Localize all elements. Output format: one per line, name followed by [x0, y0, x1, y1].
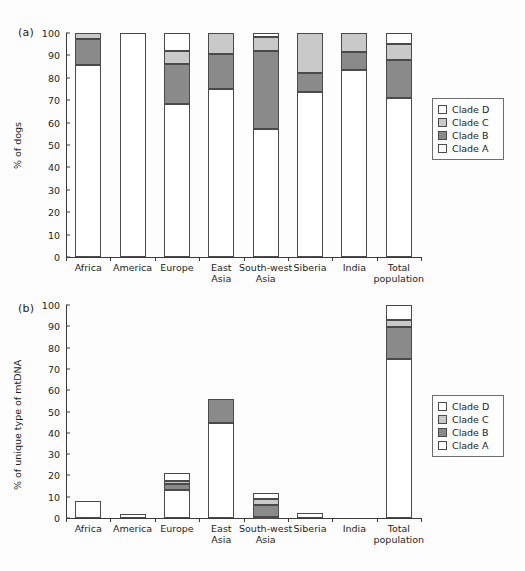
y-tick-mark [66, 496, 70, 497]
panel-b-y-axis-title: % of unique type of mtDNA [12, 345, 23, 505]
x-tick-mark [377, 518, 378, 522]
legend-item: Clade A [438, 142, 497, 155]
y-tick-label: 80 [48, 342, 66, 353]
y-tick-mark [66, 55, 70, 56]
bar-segment-clade-a [297, 513, 323, 518]
bar-total-population [386, 305, 412, 518]
x-tick-mark [110, 257, 111, 261]
bar-segment-clade-b [386, 327, 412, 359]
y-tick-label: 80 [48, 72, 66, 83]
x-axis-label: Total population [362, 262, 436, 284]
bar-segment-clade-b [341, 52, 367, 70]
y-tick-mark [66, 305, 70, 306]
y-tick-label: 70 [48, 363, 66, 374]
x-tick-mark [244, 518, 245, 522]
bar-segment-clade-b [253, 505, 279, 517]
x-tick-mark [155, 518, 156, 522]
bar-south-west-asia [253, 305, 279, 518]
x-tick-mark [421, 518, 422, 522]
y-tick-mark [66, 454, 70, 455]
x-tick-mark [332, 257, 333, 261]
panel-a-plot-area: 0102030405060708090100 [66, 33, 421, 257]
bar-segment-clade-c [164, 481, 190, 484]
legend-item-label: Clade D [452, 104, 489, 115]
legend-item: Clade B [438, 426, 497, 439]
bar-segment-clade-d [386, 305, 412, 320]
bar-segment-clade-c [164, 51, 190, 64]
legend-item: Clade D [438, 400, 497, 413]
bar-segment-clade-a [386, 98, 412, 257]
bar-segment-clade-b [253, 51, 279, 129]
y-tick-label: 0 [54, 252, 66, 263]
bar-europe [164, 305, 190, 518]
legend-swatch-icon [438, 441, 447, 450]
y-tick-label: 60 [48, 385, 66, 396]
y-tick-mark [66, 326, 70, 327]
bar-india [341, 33, 367, 257]
legend-item: Clade B [438, 129, 497, 142]
x-axis-label: Total population [362, 523, 436, 545]
y-tick-mark [66, 368, 70, 369]
panel-b-legend: Clade DClade CClade BClade A [432, 395, 504, 457]
y-tick-mark [66, 390, 70, 391]
x-tick-mark [288, 518, 289, 522]
y-tick-label: 40 [48, 427, 66, 438]
legend-swatch-icon [438, 144, 447, 153]
x-tick-mark [110, 518, 111, 522]
bar-europe [164, 33, 190, 257]
y-tick-mark [66, 234, 70, 235]
bar-siberia [297, 305, 323, 518]
figure-canvas: (a) % of dogs 0102030405060708090100 Cla… [0, 0, 525, 571]
panel-b-label: (b) [18, 302, 34, 315]
legend-item-label: Clade D [452, 401, 489, 412]
panel-a-y-axis-title: % of dogs [12, 100, 23, 190]
panel-a: (a) % of dogs 0102030405060708090100 Cla… [0, 0, 525, 290]
legend-item-label: Clade C [452, 117, 489, 128]
y-tick-label: 20 [48, 470, 66, 481]
y-tick-label: 20 [48, 207, 66, 218]
bar-segment-clade-b [297, 73, 323, 92]
y-tick-label: 70 [48, 95, 66, 106]
legend-item: Clade C [438, 413, 497, 426]
bar-segment-clade-a [120, 33, 146, 257]
bar-segment-clade-d [253, 33, 279, 37]
bar-america [120, 33, 146, 257]
bar-segment-clade-c [386, 320, 412, 327]
bar-segment-clade-c [253, 499, 279, 505]
bar-segment-clade-a [386, 359, 412, 518]
y-tick-label: 40 [48, 162, 66, 173]
bar-segment-clade-a [208, 89, 234, 257]
legend-swatch-icon [438, 118, 447, 127]
bar-south-west-asia [253, 33, 279, 257]
x-tick-mark [66, 518, 67, 522]
legend-item-label: Clade A [452, 440, 489, 451]
bar-segment-clade-d [386, 33, 412, 44]
y-tick-label: 30 [48, 184, 66, 195]
y-tick-label: 100 [42, 300, 66, 311]
bar-east-asia [208, 305, 234, 518]
panel-a-label: (a) [18, 26, 34, 39]
bar-india [341, 305, 367, 518]
bar-segment-clade-a [75, 65, 101, 257]
legend-item: Clade D [438, 103, 497, 116]
bar-segment-clade-c [75, 33, 101, 39]
bar-segment-clade-b [208, 54, 234, 89]
bar-segment-clade-c [297, 33, 323, 73]
bar-segment-clade-c [341, 33, 367, 52]
x-tick-mark [199, 257, 200, 261]
bar-segment-clade-b [164, 484, 190, 490]
bar-segment-clade-c [253, 37, 279, 50]
y-tick-mark [66, 212, 70, 213]
legend-item-label: Clade C [452, 414, 489, 425]
legend-swatch-icon [438, 415, 447, 424]
x-tick-mark [288, 257, 289, 261]
y-tick-mark [66, 33, 70, 34]
bar-segment-clade-d [253, 493, 279, 499]
bar-segment-clade-a [120, 514, 146, 518]
bar-segment-clade-b [386, 60, 412, 98]
legend-swatch-icon [438, 131, 447, 140]
bar-africa [75, 33, 101, 257]
y-tick-mark [66, 347, 70, 348]
panel-b: (b) % of unique type of mtDNA 0102030405… [0, 290, 525, 571]
bar-segment-clade-a [208, 423, 234, 518]
